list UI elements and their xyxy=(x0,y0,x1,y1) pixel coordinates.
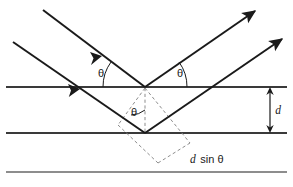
reflected-ray-upper xyxy=(145,11,255,87)
diagram-canvas: θ θ θ d d sin θ xyxy=(0,0,293,187)
diagram-labels: θ θ θ d d sin θ xyxy=(98,67,281,165)
path-difference-closing-dashed xyxy=(158,143,190,163)
incident-perpendicular-extension-dashed xyxy=(118,125,158,163)
reflected-perpendicular-dashed xyxy=(145,88,190,143)
path-difference-d-symbol: d xyxy=(190,153,196,165)
theta-interior-label: θ xyxy=(131,106,137,118)
lattice-planes xyxy=(6,87,287,172)
bragg-diffraction-figure: θ θ θ d d sin θ xyxy=(0,0,293,187)
incident-ray-upper xyxy=(43,10,145,87)
path-difference-sin-theta: sin θ xyxy=(197,153,223,165)
arc-theta-incident xyxy=(103,62,111,87)
construction-lines xyxy=(118,88,190,163)
incident-rays xyxy=(13,10,145,133)
theta-reflected-label: θ xyxy=(177,67,183,79)
reflected-rays xyxy=(145,11,282,133)
spacing-dimension xyxy=(266,87,273,133)
interplanar-spacing-label: d xyxy=(275,104,281,116)
path-difference-label: d sin θ xyxy=(190,153,224,165)
theta-incident-label: θ xyxy=(98,67,104,79)
